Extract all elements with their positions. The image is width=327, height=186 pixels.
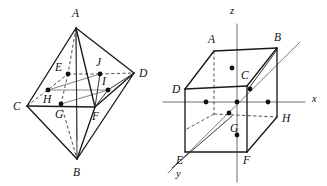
edge-inner-back-dashed <box>185 114 214 130</box>
label-cube-D: D <box>171 83 181 95</box>
edge-inner-H-dashed <box>214 114 277 117</box>
label-z-axis: z <box>229 5 234 16</box>
edge-A-B-top <box>214 48 277 51</box>
edge-A-D <box>185 51 214 89</box>
y-axis-line <box>168 42 300 173</box>
dot-diagonal <box>227 111 232 116</box>
label-cube-E: E <box>175 154 183 166</box>
cube-edges <box>172 48 277 168</box>
dot-x-right <box>266 100 271 105</box>
dot-origin <box>235 100 240 105</box>
cube-hidden-edges <box>185 51 277 130</box>
label-y-axis: y <box>175 168 181 179</box>
label-cube-H: H <box>281 112 291 124</box>
edge-D-C <box>185 86 247 89</box>
right-cube-figure: A B C D E F G H z x y <box>0 0 327 186</box>
coordinate-axes <box>163 24 305 182</box>
cube-labels: A B C D E F G H <box>171 31 291 166</box>
axis-labels: z x y <box>175 5 317 179</box>
dot-z-upper <box>230 66 235 71</box>
label-x-axis: x <box>311 93 317 104</box>
dot-x-left <box>204 100 209 105</box>
edge-F-H <box>247 117 277 152</box>
dot-C <box>248 87 253 92</box>
label-cube-G: G <box>230 122 239 134</box>
label-cube-B: B <box>274 31 281 43</box>
label-cube-A: A <box>207 33 216 45</box>
label-cube-C: C <box>241 69 249 81</box>
diagram-canvas: A B C D E J I H G F <box>0 0 327 186</box>
label-cube-F: F <box>242 154 251 166</box>
